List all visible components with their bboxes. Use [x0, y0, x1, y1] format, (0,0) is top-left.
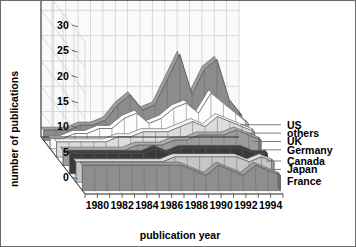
chart-legend: USothersUKGermanyCanadaJapanFrance — [287, 119, 333, 187]
x-tick-label: 1980 — [86, 199, 110, 211]
y-tick-label: 30 — [57, 19, 69, 31]
y-tick-label: 0 — [63, 171, 69, 183]
x-tick-label: 1984 — [135, 199, 159, 211]
chart-figure: 051015202530 198019821984198619881990199… — [0, 0, 356, 247]
y-axis-title: number of publications — [8, 71, 20, 187]
y-tick-label: 15 — [57, 95, 69, 107]
y-tick-label: 5 — [63, 146, 69, 158]
x-tick-label: 1992 — [234, 199, 258, 211]
x-axis-tick-labels: 19801982198419861988199019921994 — [86, 199, 283, 211]
x-tick-label: 1988 — [185, 199, 209, 211]
x-tick-label: 1982 — [110, 199, 134, 211]
chart-canvas: 051015202530 198019821984198619881990199… — [1, 1, 355, 246]
x-axis-title: publication year — [140, 229, 221, 241]
x-tick-label: 1986 — [160, 199, 184, 211]
y-tick-label: 25 — [57, 44, 69, 56]
x-tick-label: 1994 — [259, 199, 283, 211]
y-tick-label: 10 — [57, 120, 69, 132]
x-tick-label: 1990 — [209, 199, 233, 211]
y-tick-label: 20 — [57, 70, 69, 82]
legend-label-france: France — [287, 175, 322, 187]
